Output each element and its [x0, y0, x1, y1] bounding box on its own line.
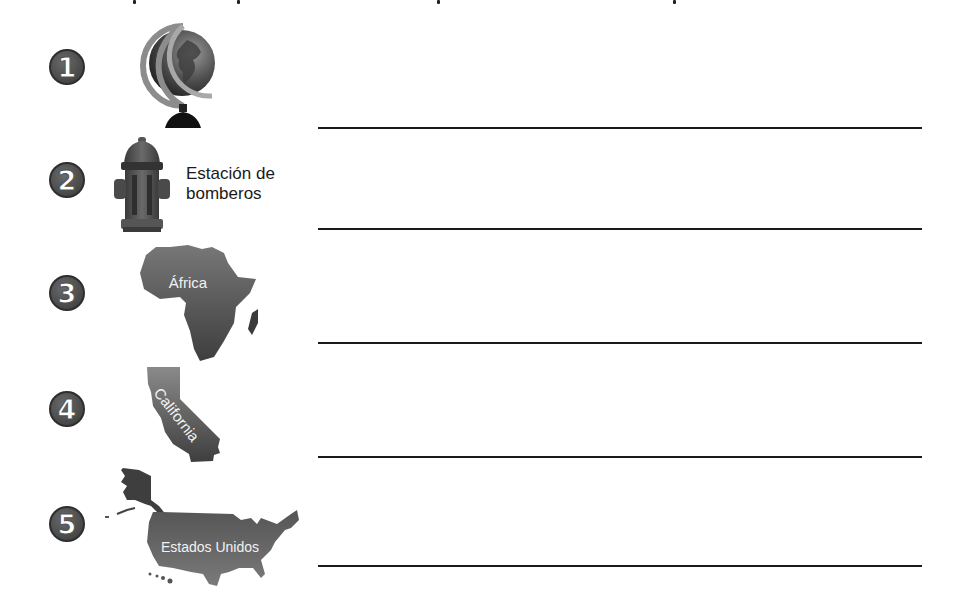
number-badge: 3: [49, 275, 85, 311]
number-badge: 1: [49, 49, 85, 85]
worksheet-item-2: 2 Estación de bomberos: [0, 135, 960, 235]
worksheet-item-4: 4 California: [0, 355, 960, 470]
globe-icon: [135, 18, 220, 133]
label-line-2: bomberos: [186, 184, 275, 204]
item-label: Estación de bomberos: [186, 164, 275, 204]
number-badge: 4: [49, 391, 85, 427]
number-badge: 2: [49, 162, 85, 198]
label-line-1: Estación de: [186, 164, 275, 184]
fire-hydrant-icon: [112, 137, 172, 235]
answer-line-3[interactable]: [318, 342, 922, 344]
california-map-icon: California: [143, 367, 238, 462]
answer-line-2[interactable]: [318, 228, 922, 230]
usa-map-icon: Estados Unidos: [105, 464, 300, 589]
worksheet-item-5: 5 Estados Unidos: [0, 462, 960, 602]
map-label: África: [169, 274, 208, 291]
answer-line-4[interactable]: [318, 456, 922, 458]
worksheet-item-3: 3 África: [0, 235, 960, 355]
answer-line-5[interactable]: [318, 565, 922, 567]
number-badge: 5: [49, 506, 85, 542]
map-label: Estados Unidos: [161, 539, 259, 555]
worksheet-item-1: 1: [0, 0, 960, 135]
answer-line-1[interactable]: [318, 127, 922, 129]
africa-map-icon: África: [140, 243, 265, 365]
